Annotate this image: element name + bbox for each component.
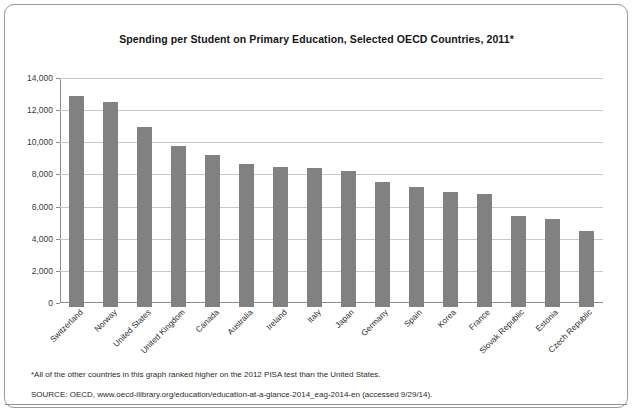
bar-slot bbox=[443, 78, 458, 303]
x-tick-mark bbox=[69, 303, 84, 307]
x-axis-tick-label-text: Estonia bbox=[534, 308, 560, 334]
x-axis-tick-label: Canada bbox=[192, 312, 219, 339]
bar-slot bbox=[375, 78, 390, 303]
x-tick-mark bbox=[137, 303, 152, 307]
bar-series bbox=[60, 78, 603, 303]
x-tick-mark bbox=[409, 303, 424, 307]
y-tick-mark bbox=[56, 303, 60, 304]
bar bbox=[307, 168, 322, 303]
x-tick-mark bbox=[205, 303, 220, 307]
bar-slot bbox=[239, 78, 254, 303]
bar bbox=[477, 194, 492, 303]
chart-page: Spending per Student on Primary Educatio… bbox=[0, 0, 633, 413]
footnote-text: *All of the other countries in this grap… bbox=[31, 370, 381, 379]
x-axis-tick-label-text: Canada bbox=[194, 308, 221, 335]
x-axis-tick-label-text: Spain bbox=[403, 308, 424, 329]
bar bbox=[375, 182, 390, 303]
bar bbox=[239, 164, 254, 303]
x-axis-tick-label: Italy bbox=[304, 312, 321, 329]
bar-slot bbox=[171, 78, 186, 303]
bar-slot bbox=[69, 78, 84, 303]
bar bbox=[205, 155, 220, 303]
bar bbox=[103, 102, 118, 303]
x-tick-mark bbox=[477, 303, 492, 307]
bar-slot bbox=[103, 78, 118, 303]
x-tick-mark bbox=[511, 303, 526, 307]
chart-title: Spending per Student on Primary Educatio… bbox=[0, 33, 633, 45]
x-axis-tick-label-text: France bbox=[468, 308, 492, 332]
bar bbox=[545, 219, 560, 303]
x-axis-tick-label-text: Ireland bbox=[264, 308, 288, 332]
y-axis-tick-label: 2,000 bbox=[32, 266, 53, 276]
y-axis-tick-label: 8,000 bbox=[32, 169, 53, 179]
bar-slot bbox=[307, 78, 322, 303]
bottom-rule bbox=[5, 404, 627, 405]
source-text: SOURCE: OECD, www.oecd-ilibrary.org/educ… bbox=[31, 390, 432, 399]
x-axis-tick-label: France bbox=[466, 312, 490, 336]
x-tick-mark bbox=[273, 303, 288, 307]
x-axis-tick-label: Switzerland bbox=[47, 312, 83, 348]
bar-slot bbox=[477, 78, 492, 303]
bar-slot bbox=[205, 78, 220, 303]
y-axis-tick-label: 10,000 bbox=[27, 137, 53, 147]
bar-slot bbox=[409, 78, 424, 303]
bar bbox=[137, 127, 152, 303]
x-tick-mark bbox=[579, 303, 594, 307]
bar-slot bbox=[545, 78, 560, 303]
x-tick-mark bbox=[239, 303, 254, 307]
x-axis-tick-label-text: Italy bbox=[305, 308, 322, 325]
x-axis-tick-label-text: Korea bbox=[436, 308, 458, 330]
bar-slot bbox=[511, 78, 526, 303]
x-axis-tick-label-text: Germany bbox=[360, 308, 390, 338]
x-axis-tick-label-text: Australia bbox=[226, 308, 255, 337]
bar bbox=[69, 96, 84, 303]
x-tick-mark bbox=[171, 303, 186, 307]
bar bbox=[443, 192, 458, 303]
y-axis-tick-label: 0 bbox=[48, 298, 53, 308]
y-axis-tick-label: 6,000 bbox=[32, 202, 53, 212]
x-tick-mark bbox=[375, 303, 390, 307]
x-axis-tick-label-text: Japan bbox=[334, 308, 356, 330]
y-axis-tick-label: 12,000 bbox=[27, 105, 53, 115]
x-tick-mark bbox=[341, 303, 356, 307]
bar-slot bbox=[273, 78, 288, 303]
x-tick-mark bbox=[443, 303, 458, 307]
x-axis-tick-label: Norway bbox=[91, 312, 117, 338]
x-axis-tick-label: Japan bbox=[333, 312, 355, 334]
x-tick-mark bbox=[307, 303, 322, 307]
x-tick-mark bbox=[103, 303, 118, 307]
y-axis-tick-label: 4,000 bbox=[32, 234, 53, 244]
bar bbox=[409, 187, 424, 303]
bar bbox=[273, 167, 288, 303]
x-axis-tick-label: Estonia bbox=[533, 312, 559, 338]
bar-slot bbox=[137, 78, 152, 303]
bar-slot bbox=[341, 78, 356, 303]
x-axis-tick-label-text: Norway bbox=[93, 308, 119, 334]
bar bbox=[579, 231, 594, 303]
x-axis-tick-label-text: Switzerland bbox=[48, 308, 84, 344]
y-axis-tick-label: 14,000 bbox=[27, 73, 53, 83]
bar bbox=[511, 216, 526, 303]
x-axis-tick-label: Germany bbox=[359, 312, 389, 342]
x-tick-mark bbox=[545, 303, 560, 307]
plot-area: 02,0004,0006,0008,00010,00012,00014,000 … bbox=[60, 78, 603, 303]
bar bbox=[171, 146, 186, 304]
bar-slot bbox=[579, 78, 594, 303]
x-axis-tick-label: Ireland bbox=[263, 312, 287, 336]
x-axis-tick-label: Spain bbox=[402, 312, 423, 333]
bar bbox=[341, 171, 356, 303]
x-axis-tick-label: Korea bbox=[435, 312, 457, 334]
x-axis-tick-label: Australia bbox=[224, 312, 253, 341]
